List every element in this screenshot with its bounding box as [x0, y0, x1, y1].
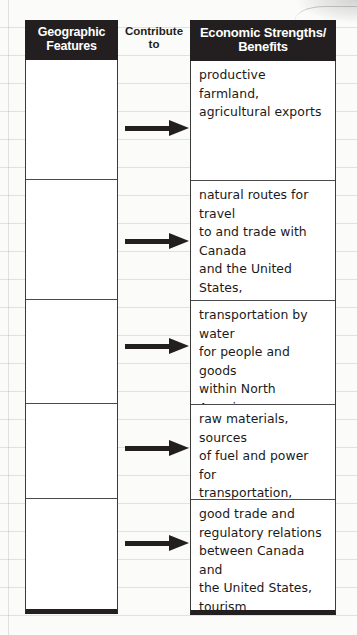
column-header-economic-strengths-benefits: Economic Strengths/ Benefits [190, 20, 336, 61]
table-row[interactable] [26, 300, 117, 404]
table-row[interactable]: raw materials, sources of fuel and power… [191, 405, 335, 500]
graphic-organizer: Geographic Features Contribute to [0, 0, 357, 635]
cell-text: natural routes for travel to and trade w… [199, 186, 328, 301]
table-row[interactable] [26, 404, 117, 499]
arrow-head [169, 120, 189, 136]
column-header-geographic-features: Geographic Features [25, 20, 118, 60]
arrow-shaft [125, 541, 171, 546]
arrow-head [169, 440, 189, 456]
table-row[interactable] [26, 180, 117, 300]
cell-text [34, 185, 110, 186]
column-header-contribute-to: Contribute to [120, 20, 188, 51]
table-row[interactable] [26, 60, 117, 180]
cell-text [34, 409, 110, 410]
arrow-head [169, 233, 189, 249]
arrow-shaft [125, 126, 171, 131]
table-row[interactable]: transportation by water for people and g… [191, 301, 335, 405]
column-contribute-to: Contribute to [120, 20, 188, 51]
table-row[interactable]: good trade and regulatory relations betw… [191, 500, 335, 610]
arrow-right-icon [125, 440, 189, 456]
arrow-shaft [125, 446, 171, 451]
column-geographic-features: Geographic Features [25, 20, 118, 614]
arrow-right-icon [125, 120, 189, 136]
arrow-right-icon [125, 338, 189, 354]
arrow-right-icon [125, 535, 189, 551]
arrow-right-icon [125, 233, 189, 249]
cell-text [34, 504, 110, 505]
column-body-geographic-features [25, 60, 118, 614]
cell-text: raw materials, sources of fuel and power… [199, 410, 328, 500]
column-economic-strengths-benefits: Economic Strengths/ Benefits productive … [190, 20, 336, 615]
arrow-head [169, 535, 189, 551]
table-row[interactable]: productive farmland, agricultural export… [191, 61, 335, 181]
cell-text [34, 305, 110, 306]
arrow-shaft [125, 344, 171, 349]
column-body-economic-strengths-benefits: productive farmland, agricultural export… [190, 61, 336, 615]
arrow-shaft [125, 239, 171, 244]
cell-text [34, 65, 110, 66]
cell-text: good trade and regulatory relations betw… [199, 505, 328, 610]
table-row[interactable]: natural routes for travel to and trade w… [191, 181, 335, 301]
cell-text: productive farmland, agricultural export… [199, 66, 328, 122]
arrow-head [169, 338, 189, 354]
cell-text: transportation by water for people and g… [199, 306, 328, 405]
table-row[interactable] [26, 499, 117, 609]
